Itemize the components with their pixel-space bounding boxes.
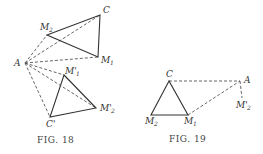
label-mp1: M' 1 bbox=[64, 66, 80, 77]
caption-fig-18: FIG. 18 bbox=[37, 135, 74, 145]
svg-text:2: 2 bbox=[110, 107, 115, 114]
triangle-c-m2-m1 bbox=[151, 81, 188, 115]
caption-fig-19: FIG. 19 bbox=[169, 134, 206, 144]
label-m1: M 1 bbox=[100, 55, 114, 66]
svg-text:M': M' bbox=[235, 100, 248, 110]
svg-text:2: 2 bbox=[246, 104, 251, 111]
segment-m1-a bbox=[188, 81, 240, 115]
svg-text:2: 2 bbox=[48, 26, 53, 33]
figure-19: C A M' 2 M 2 M 1 FIG. 19 bbox=[144, 69, 251, 144]
svg-text:1: 1 bbox=[110, 59, 114, 66]
label-mp2: M' 2 bbox=[235, 100, 251, 111]
label-c: C bbox=[103, 5, 110, 15]
svg-text:M': M' bbox=[64, 66, 77, 76]
label-cp: C' bbox=[46, 119, 55, 129]
segment-a-mp1 bbox=[25, 63, 64, 75]
label-m2: M 2 bbox=[39, 22, 53, 33]
label-mp2: M' 2 bbox=[99, 103, 115, 114]
segment-a-c bbox=[25, 15, 100, 63]
label-a: A bbox=[243, 75, 251, 85]
triangle-mp1-mp2-cp bbox=[50, 75, 96, 117]
label-c: C bbox=[166, 69, 173, 79]
svg-text:1: 1 bbox=[76, 70, 80, 77]
segment-a-cp bbox=[25, 63, 50, 117]
label-m1: M 1 bbox=[183, 116, 197, 127]
segment-a-m2 bbox=[25, 35, 47, 63]
triangle-m2-c-m1 bbox=[47, 15, 100, 57]
label-m2: M 2 bbox=[144, 116, 158, 127]
segment-a-m1 bbox=[25, 57, 98, 63]
segment-a-mp2 bbox=[240, 81, 242, 98]
svg-text:M': M' bbox=[99, 103, 112, 113]
diagram-canvas: A C M 2 M 1 M' 1 M' 2 C' FIG. 18 C A M' … bbox=[0, 0, 263, 154]
svg-text:1: 1 bbox=[193, 120, 197, 127]
figure-18: A C M 2 M 1 M' 1 M' 2 C' FIG. 18 bbox=[13, 5, 115, 145]
label-a: A bbox=[13, 58, 21, 68]
svg-text:2: 2 bbox=[153, 120, 158, 127]
